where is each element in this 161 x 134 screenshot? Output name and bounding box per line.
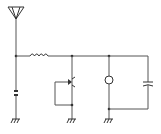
transistor-icon xyxy=(55,56,75,119)
ground-icon xyxy=(67,119,76,123)
ground-icon xyxy=(11,119,20,123)
antenna-icon xyxy=(8,7,24,19)
inductor-icon xyxy=(30,54,48,56)
junction-dot xyxy=(71,104,74,107)
capacitor-icon xyxy=(109,56,153,109)
crystal-icon xyxy=(14,90,18,96)
ground-icon xyxy=(104,119,113,123)
schematic-diagram xyxy=(0,0,161,134)
